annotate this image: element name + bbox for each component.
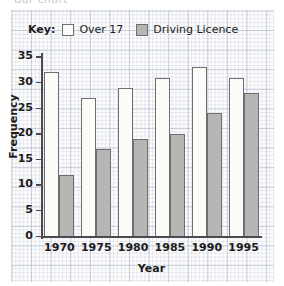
bar-1990-over-17 xyxy=(192,67,207,236)
legend-entry-driving-licence: Driving Licence xyxy=(136,23,238,36)
y-axis-tick-label: 35 xyxy=(18,49,33,62)
x-axis-title: Year xyxy=(41,262,262,275)
legend-label-driving-licence: Driving Licence xyxy=(153,23,238,36)
y-axis-tick-label: 10 xyxy=(18,177,33,190)
x-axis-tick-label: 1975 xyxy=(81,241,112,254)
plot-area: 05101520253035 197019751980198519901995 xyxy=(41,57,262,238)
bar-group-1970: 1970 xyxy=(41,55,78,236)
legend-key-label: Key: xyxy=(28,23,55,36)
y-axis-tick-label: 5 xyxy=(25,203,33,216)
bar-group-1990: 1990 xyxy=(188,55,225,236)
white-square-icon xyxy=(62,24,74,36)
x-axis-tick-label: 1990 xyxy=(191,241,222,254)
x-axis-tick-label: 1980 xyxy=(118,241,149,254)
bar-group-1995: 1995 xyxy=(225,55,262,236)
bar-1985-over-17 xyxy=(155,78,170,237)
bar-group-1975: 1975 xyxy=(78,55,115,236)
y-axis-tick-label: 25 xyxy=(18,101,33,114)
bar-1985-driving-licence xyxy=(170,134,185,237)
bar-group-1985: 1985 xyxy=(152,55,189,236)
bar-1970-over-17 xyxy=(44,72,59,236)
chart-legend: Key: Over 17 Driving Licence xyxy=(28,22,251,37)
bar-group-1980: 1980 xyxy=(115,55,152,236)
x-axis-tick-label: 1995 xyxy=(228,241,259,254)
bar-1975-over-17 xyxy=(81,98,96,236)
bar-1975-driving-licence xyxy=(96,149,111,236)
y-axis-tick-label: 30 xyxy=(18,75,33,88)
y-axis-title: Frequency xyxy=(7,94,20,158)
y-axis-tick-label: 20 xyxy=(18,126,33,139)
bar-1970-driving-licence xyxy=(59,175,74,237)
bar-1980-driving-licence xyxy=(133,139,148,236)
figure-caption-text: Bar chart xyxy=(14,0,68,6)
bar-1980-over-17 xyxy=(118,88,133,237)
bar-1990-driving-licence xyxy=(207,113,222,236)
bar-1995-over-17 xyxy=(229,78,244,237)
y-axis-tick-label: 0 xyxy=(25,229,33,242)
bar-1995-driving-licence xyxy=(244,93,259,237)
figure-caption-cropped: Bar chart xyxy=(0,0,284,8)
x-axis-tick-label: 1985 xyxy=(155,241,186,254)
legend-label-over-17: Over 17 xyxy=(79,23,123,36)
x-axis-line xyxy=(41,236,262,238)
legend-entry-over-17: Over 17 xyxy=(62,23,123,36)
grey-square-icon xyxy=(136,24,148,36)
x-axis-tick-label: 1970 xyxy=(44,241,75,254)
bar-chart-figure: Bar chart Key: Over 17 Driving Licence 0… xyxy=(0,0,284,286)
y-axis-tick-label: 15 xyxy=(18,152,33,165)
